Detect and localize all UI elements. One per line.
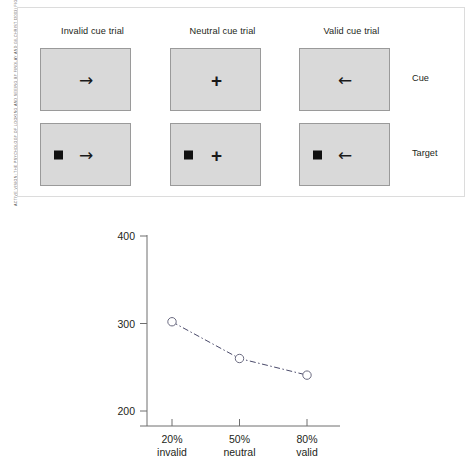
data-point-marker — [168, 318, 176, 326]
x-category-label: 50% — [229, 433, 250, 445]
target-arrow-right-icon: → — [79, 146, 93, 163]
stimulus-box-cue-valid: ← — [299, 48, 390, 111]
data-series — [168, 318, 311, 380]
reaction-time-chart: Reaction time (ms) 200300400 20%invalid5… — [0, 205, 475, 465]
row-label-cue: Cue — [412, 73, 429, 83]
x-category-label: valid — [296, 446, 318, 458]
x-category-label: 20% — [161, 433, 182, 445]
y-tick-label: 300 — [117, 318, 135, 330]
cue-arrow-right-icon: → — [79, 71, 93, 88]
cue-plus-icon: + — [211, 70, 222, 89]
target-square-icon — [184, 150, 193, 159]
y-axis-ticks: 200300400 — [117, 230, 147, 417]
column-heading-neutral: Neutral cue trial — [170, 26, 275, 36]
data-point-marker — [235, 354, 243, 362]
x-axis-category-labels: 20%invalid50%neutral80%valid — [157, 433, 318, 458]
column-heading-valid: Valid cue trial — [299, 26, 404, 36]
stimulus-box-target-neutral: + — [170, 123, 261, 186]
row-label-target: Target — [412, 148, 438, 158]
stimulus-box-target-invalid: → — [40, 123, 131, 186]
target-square-icon — [313, 150, 322, 159]
x-axis-ticks — [172, 419, 307, 426]
data-point-marker — [303, 371, 311, 379]
stimulus-box-cue-neutral: + — [170, 48, 261, 111]
series-line — [172, 322, 307, 375]
target-square-icon — [54, 150, 63, 159]
x-category-label: 80% — [296, 433, 317, 445]
x-category-label: neutral — [223, 446, 255, 458]
cue-arrow-left-icon: ← — [338, 71, 352, 88]
chart-svg: 200300400 20%invalid50%neutral80%valid — [0, 205, 475, 465]
target-arrow-left-icon: ← — [338, 146, 352, 163]
stimulus-box-cue-invalid: → — [40, 48, 131, 111]
y-tick-label: 200 — [117, 405, 135, 417]
column-heading-invalid: Invalid cue trial — [40, 26, 145, 36]
cueing-paradigm-diagram: Invalid cue trial Neutral cue trial Vali… — [17, 7, 465, 197]
target-plus-icon: + — [211, 145, 222, 164]
y-tick-label: 400 — [117, 230, 135, 242]
stimulus-box-target-valid: ← — [299, 123, 390, 186]
x-category-label: invalid — [157, 446, 187, 458]
